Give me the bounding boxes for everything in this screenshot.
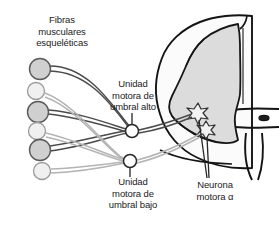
fiber-2	[28, 83, 45, 100]
muscle-fibers-label-line3: esqueléticas	[8, 37, 116, 49]
high-threshold-node	[126, 125, 139, 138]
anterior-median-fissure-right	[258, 133, 263, 180]
central-canal-band-top	[235, 108, 279, 110]
motor-unit-diagram: Fibras musculares esqueléticas Unidad mo…	[0, 0, 279, 226]
low-threshold-motor-unit-label: Unidad motora de umbral bajo	[96, 176, 170, 211]
muscle-fiber-circles	[28, 59, 51, 180]
fiber-6	[34, 163, 51, 180]
high-threshold-label-line2: motora de	[96, 90, 170, 102]
muscle-fibers-label-line1: Fibras	[8, 14, 116, 26]
low-threshold-node	[124, 155, 137, 168]
fiber-4	[29, 123, 46, 140]
low-threshold-label-line1: Unidad	[96, 176, 170, 188]
low-threshold-label-line2: motora de	[96, 188, 170, 200]
muscle-fibers-label-line2: musculares	[8, 26, 116, 38]
high-threshold-label-line3: umbral alto	[96, 101, 170, 113]
central-canal-band-bottom	[235, 127, 279, 128]
high-threshold-label-line1: Unidad	[96, 78, 170, 90]
central-canal	[259, 115, 269, 120]
axon-fiber-6b	[51, 162, 130, 173]
fiber-1	[30, 59, 51, 80]
axon-fiber-4	[46, 133, 130, 161]
alpha-motor-neuron-label: Neurona motora α	[177, 179, 253, 202]
muscle-fibers-label: Fibras musculares esqueléticas	[8, 14, 116, 49]
low-threshold-label-line3: umbral bajo	[96, 199, 170, 211]
spinal-cord-cross-section	[156, 15, 279, 180]
axon-fiber-5	[50, 131, 132, 146]
fiber-5	[30, 140, 51, 161]
high-threshold-motor-unit-label: Unidad motora de umbral alto	[96, 78, 170, 113]
alpha-motor-neuron-label-line2: motora α	[177, 191, 253, 203]
fiber-3	[28, 102, 49, 123]
alpha-motor-neuron-label-line1: Neurona	[177, 179, 253, 191]
